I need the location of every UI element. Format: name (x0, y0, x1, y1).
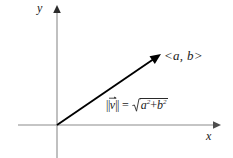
square-root-group: a2+b2 (132, 98, 168, 111)
equals-sign: = (122, 99, 129, 111)
exponent-b: 2 (163, 98, 167, 106)
vector-overarrow-icon (109, 95, 117, 100)
vector-symbol-group: v (110, 98, 115, 111)
y-axis-label: y (37, 2, 42, 14)
vector-symbol: v (110, 98, 115, 112)
plus-sign: + (150, 98, 157, 112)
vector-component-label: <a, b> (164, 49, 203, 62)
x-axis-label: x (206, 130, 211, 142)
magnitude-formula: || v || = a2+b2 (106, 98, 168, 111)
vector-diagram (0, 0, 233, 158)
radical-icon (132, 98, 141, 112)
radicand: a2+b2 (140, 98, 168, 111)
norm-bars-right: || (115, 99, 119, 111)
figure-background (0, 0, 233, 158)
